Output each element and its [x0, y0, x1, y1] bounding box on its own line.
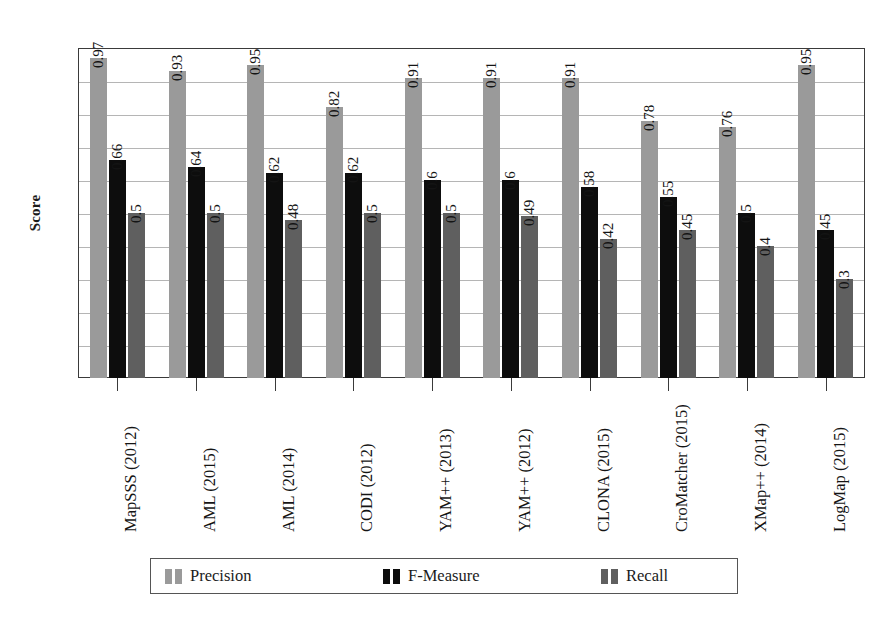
- chart-legend: PrecisionF-MeasureRecall: [150, 558, 738, 594]
- bar-value-label: 0.5: [444, 204, 459, 223]
- x-tick-label: XMap++ (2014): [753, 423, 770, 532]
- bar-value-label: 0.78: [642, 104, 657, 130]
- bar-recall: [443, 213, 460, 378]
- x-tick-label: CODI (2012): [359, 444, 376, 532]
- bar-precision: [247, 65, 264, 379]
- bar-f-measure: [660, 197, 677, 379]
- bar-value-label: 0.95: [799, 48, 814, 74]
- legend-swatch-pair: [165, 569, 182, 584]
- bar-precision: [483, 78, 500, 378]
- x-tick: [590, 378, 591, 391]
- x-axis-tick-labels: MapSSS (2012)AML (2015)AML (2014)CODI (2…: [78, 392, 865, 542]
- legend-entry-recall[interactable]: Recall: [601, 559, 668, 593]
- bar-precision: [326, 107, 343, 378]
- bar-group: 0.780.550.45: [629, 48, 708, 378]
- x-tick-label: CroMatcher (2015): [674, 404, 691, 532]
- bar-precision: [90, 58, 107, 378]
- x-tick-label: LogMap (2015): [832, 427, 849, 532]
- bar-value-label: 0.76: [720, 111, 735, 137]
- bar-recall: [207, 213, 224, 378]
- legend-entry-f-measure[interactable]: F-Measure: [383, 559, 479, 593]
- bar-value-label: 0.95: [248, 48, 263, 74]
- bar-value-label: 0.3: [837, 270, 852, 289]
- legend-swatch-icon: [601, 569, 608, 584]
- bar-f-measure: [109, 160, 126, 378]
- bar-recall: [757, 246, 774, 378]
- bar-recall: [364, 213, 381, 378]
- bar-value-label: 0.58: [582, 170, 597, 196]
- bar-value-label: 0.91: [406, 61, 421, 87]
- bar-recall: [679, 230, 696, 379]
- bar-f-measure: [424, 180, 441, 378]
- legend-swatch-icon: [165, 569, 172, 584]
- legend-swatch-pair: [601, 569, 618, 584]
- bar-f-measure: [581, 187, 598, 378]
- legend-label: Recall: [623, 566, 668, 586]
- legend-swatch-icon: [611, 569, 618, 584]
- x-tick: [196, 378, 197, 391]
- bar-value-label: 0.82: [327, 91, 342, 117]
- x-tick-label: MapSSS (2012): [123, 426, 140, 532]
- bar-value-label: 0.62: [346, 157, 361, 183]
- bars-layer: 0.970.660.50.930.640.50.950.620.480.820.…: [78, 48, 865, 378]
- x-tick-label: YAM++ (2012): [517, 429, 534, 532]
- bar-group: 0.910.60.49: [472, 48, 551, 378]
- bar-f-measure: [345, 173, 362, 378]
- bar-chart-figure: Score 00.10.20.30.40.50.60.70.80.91 0.97…: [0, 0, 890, 629]
- bar-value-label: 0.5: [129, 204, 144, 223]
- bar-group: 0.760.50.4: [708, 48, 787, 378]
- bar-group: 0.910.580.42: [550, 48, 629, 378]
- bar-value-label: 0.48: [286, 203, 301, 229]
- bar-group: 0.910.60.5: [393, 48, 472, 378]
- y-axis-tick-labels: 00.10.20.30.40.50.60.70.80.91: [0, 0, 72, 629]
- bar-value-label: 0.6: [503, 171, 518, 190]
- bar-group: 0.970.660.5: [78, 48, 157, 378]
- legend-swatch-icon: [383, 569, 390, 584]
- bar-precision: [719, 127, 736, 378]
- legend-label: F-Measure: [405, 566, 479, 586]
- bar-f-measure: [502, 180, 519, 378]
- bar-value-label: 0.91: [484, 61, 499, 87]
- bar-value-label: 0.5: [208, 204, 223, 223]
- bar-recall: [521, 216, 538, 378]
- figure-caption: [418, 614, 890, 629]
- bar-value-label: 0.49: [522, 200, 537, 226]
- bar-group: 0.950.620.48: [235, 48, 314, 378]
- bar-precision: [169, 71, 186, 378]
- bar-group: 0.930.640.5: [157, 48, 236, 378]
- legend-swatch-icon: [393, 569, 400, 584]
- x-tick: [511, 378, 512, 391]
- bar-recall: [128, 213, 145, 378]
- bar-precision: [562, 78, 579, 378]
- bar-value-label: 0.4: [758, 237, 773, 256]
- legend-swatch-icon: [175, 569, 182, 584]
- bar-value-label: 0.45: [680, 213, 695, 239]
- legend-label: Precision: [187, 566, 251, 586]
- legend-swatch-pair: [383, 569, 400, 584]
- bar-f-measure: [266, 173, 283, 378]
- bar-value-label: 0.45: [818, 213, 833, 239]
- bar-value-label: 0.91: [563, 61, 578, 87]
- bar-f-measure: [738, 213, 755, 378]
- bar-value-label: 0.64: [189, 151, 204, 177]
- x-tick: [432, 378, 433, 391]
- x-tick-label: AML (2015): [202, 448, 219, 532]
- bar-value-label: 0.62: [267, 157, 282, 183]
- bar-value-label: 0.42: [601, 223, 616, 249]
- bar-value-label: 0.6: [425, 171, 440, 190]
- bar-value-label: 0.97: [91, 42, 106, 68]
- bar-f-measure: [188, 167, 205, 378]
- bar-group: 0.820.620.5: [314, 48, 393, 378]
- bar-recall: [836, 279, 853, 378]
- bar-value-label: 0.5: [365, 204, 380, 223]
- bar-f-measure: [817, 230, 834, 379]
- x-tick: [275, 378, 276, 391]
- bar-precision: [405, 78, 422, 378]
- bar-value-label: 0.66: [110, 144, 125, 170]
- legend-entry-precision[interactable]: Precision: [165, 559, 251, 593]
- bar-group: 0.950.450.3: [786, 48, 865, 378]
- x-tick-label: YAM++ (2013): [438, 429, 455, 532]
- x-tick: [747, 378, 748, 391]
- x-tick: [353, 378, 354, 391]
- x-tick: [668, 378, 669, 391]
